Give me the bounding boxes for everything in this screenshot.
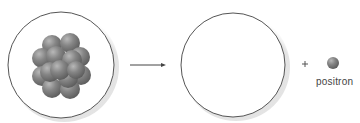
positron-icon [327, 57, 339, 69]
positron-label: positron [316, 76, 353, 87]
plus-icon [302, 61, 308, 67]
product-atom [181, 13, 290, 121]
parent-atom [8, 12, 119, 122]
reaction-arrow-icon [130, 63, 166, 67]
decay-diagram [0, 0, 360, 123]
